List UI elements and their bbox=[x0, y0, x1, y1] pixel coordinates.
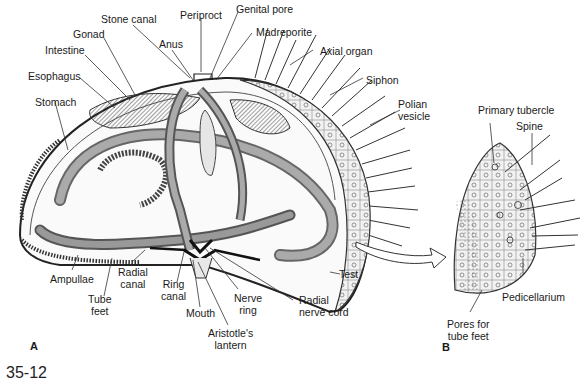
label-pores-line-1: Pores for bbox=[447, 318, 490, 330]
label-stomach: Stomach bbox=[35, 96, 76, 108]
label-ampullae: Ampullae bbox=[50, 273, 94, 285]
label-radial-nerve-cord: Radial nerve cord bbox=[299, 294, 349, 318]
label-tube-feet-line-2: feet bbox=[91, 305, 109, 317]
label-nerve-ring: Nerve ring bbox=[234, 292, 262, 316]
label-ring-canal-line-2: canal bbox=[161, 290, 186, 302]
label-intestine: Intestine bbox=[45, 44, 85, 56]
label-polian-line-2: vesicle bbox=[398, 110, 430, 122]
label-gonad: Gonad bbox=[73, 28, 105, 40]
label-ring-canal: Ring canal bbox=[161, 278, 186, 302]
label-periproct: Periproct bbox=[180, 9, 222, 21]
label-polian-vesicle: Polian vesicle bbox=[398, 98, 430, 122]
label-esophagus: Esophagus bbox=[28, 70, 81, 82]
label-siphon: Siphon bbox=[366, 74, 399, 86]
label-pedicellarium: Pedicellarium bbox=[502, 291, 565, 303]
label-pores-line-2: tube feet bbox=[448, 330, 489, 342]
figure-number: 35-12 bbox=[6, 364, 47, 382]
label-tube-feet: Tube feet bbox=[88, 293, 112, 317]
label-aristotles-lantern: Aristotle's lantern bbox=[208, 327, 253, 351]
label-stone-canal: Stone canal bbox=[101, 13, 156, 25]
label-genital-pore: Genital pore bbox=[236, 3, 293, 15]
label-spine: Spine bbox=[516, 120, 543, 132]
label-primary-tubercle: Primary tubercle bbox=[478, 104, 554, 116]
label-radial-canal-line-1: Radial bbox=[118, 266, 148, 278]
panel-label-a: A bbox=[30, 340, 38, 352]
label-aristotles-lantern-line-2: lantern bbox=[215, 339, 247, 351]
label-radial-nerve-cord-line-2: nerve cord bbox=[299, 306, 349, 318]
label-pores-for-tube-feet: Pores for tube feet bbox=[447, 318, 490, 342]
label-test: Test bbox=[339, 268, 358, 280]
label-nerve-ring-line-2: ring bbox=[239, 304, 257, 316]
label-aristotles-lantern-line-1: Aristotle's bbox=[208, 327, 253, 339]
label-mouth: Mouth bbox=[186, 307, 215, 319]
label-tube-feet-line-1: Tube bbox=[88, 293, 112, 305]
label-madreporite: Madreporite bbox=[256, 26, 312, 38]
label-radial-canal: Radial canal bbox=[118, 266, 148, 290]
label-nerve-ring-line-1: Nerve bbox=[234, 292, 262, 304]
panel-label-b: B bbox=[442, 341, 450, 353]
label-anus: Anus bbox=[159, 38, 183, 50]
label-radial-nerve-cord-line-1: Radial bbox=[299, 294, 329, 306]
label-ring-canal-line-1: Ring bbox=[163, 278, 185, 290]
label-polian-line-1: Polian bbox=[398, 98, 427, 110]
label-radial-canal-line-2: canal bbox=[120, 278, 145, 290]
label-axial-organ: Axial organ bbox=[320, 45, 373, 57]
